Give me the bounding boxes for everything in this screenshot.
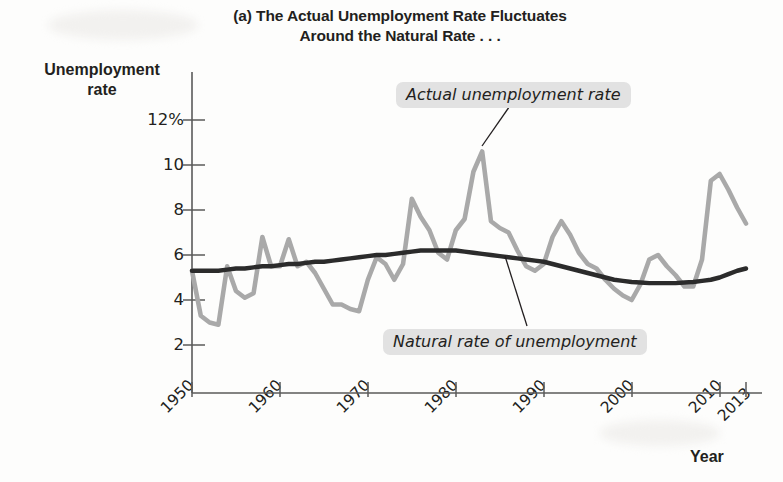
callout-actual-unemployment: Actual unemployment rate [396,82,631,108]
actual-unemployment-line [192,152,746,325]
natural-rate-line [192,251,746,284]
chart-figure: (a) The Actual Unemployment Rate Fluctua… [0,0,783,482]
callout-natural-rate: Natural rate of unemployment [383,329,647,355]
x-tick-marks [192,382,746,397]
chart-plot [0,0,783,482]
